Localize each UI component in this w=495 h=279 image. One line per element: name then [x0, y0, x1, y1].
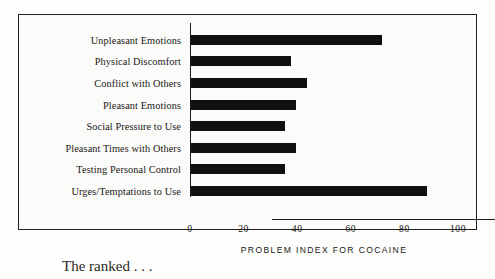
bar-row: Unpleasant Emotions [190, 29, 458, 51]
bar-row: Pleasant Times with Others [190, 137, 458, 159]
category-label: Urges/Temptations to Use [71, 185, 181, 196]
bar [191, 56, 290, 66]
x-axis-title: PROBLEM INDEX FOR COCAINE [190, 245, 458, 255]
bar [191, 186, 427, 196]
category-label: Conflict with Others [94, 77, 181, 88]
x-axis-line [272, 219, 495, 220]
category-label: Testing Personal Control [76, 164, 181, 175]
figure-canvas: Unpleasant EmotionsPhysical DiscomfortCo… [0, 0, 495, 279]
bar-row: Testing Personal Control [190, 159, 458, 181]
chart-frame: Unpleasant EmotionsPhysical DiscomfortCo… [18, 14, 477, 230]
category-label: Physical Discomfort [95, 56, 181, 67]
bar-row: Social Pressure to Use [190, 115, 458, 137]
x-tick-label: 0 [187, 223, 192, 234]
bar [191, 78, 306, 88]
x-tick-label: 100 [450, 223, 466, 234]
x-tick-label: 40 [292, 223, 303, 234]
x-tick-label: 80 [399, 223, 410, 234]
bar [191, 121, 285, 131]
bar-row: Urges/Temptations to Use [190, 180, 458, 202]
bar-row: Pleasant Emotions [190, 94, 458, 116]
caption-text-fragment: The ranked . . . [62, 258, 152, 279]
plot-area: Unpleasant EmotionsPhysical DiscomfortCo… [190, 23, 458, 197]
category-label: Pleasant Emotions [103, 99, 181, 110]
bar [191, 143, 296, 153]
bar-row: Physical Discomfort [190, 51, 458, 73]
bar [191, 100, 296, 110]
bar-row: Conflict with Others [190, 72, 458, 94]
x-tick-label: 20 [238, 223, 249, 234]
category-label: Pleasant Times with Others [65, 142, 181, 153]
category-label: Social Pressure to Use [86, 121, 181, 132]
category-label: Unpleasant Emotions [91, 34, 181, 45]
bar [191, 35, 381, 45]
x-tick-label: 60 [345, 223, 356, 234]
bar [191, 164, 285, 174]
